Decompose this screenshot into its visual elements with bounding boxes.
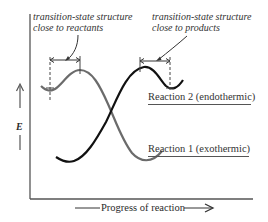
reaction-1-underline <box>148 156 249 157</box>
left-transition-bracket <box>46 56 80 102</box>
annotation-reactants-line2: close to reactants <box>33 22 132 33</box>
annotation-products: transition-state structure close to prod… <box>152 11 251 33</box>
reaction-2-label: Reaction 2 (endothermic) <box>148 91 255 103</box>
annotation-reactants-line1: transition-state structure <box>33 11 132 22</box>
annotation-products-line2: close to products <box>152 22 251 33</box>
reaction-1-label: Reaction 1 (exothermic) <box>148 143 250 155</box>
right-pointer-arrow-icon <box>158 36 187 60</box>
energy-up-arrow-icon <box>17 84 24 150</box>
reaction-1-curve <box>41 70 162 160</box>
x-axis-label: Progress of reaction <box>101 202 185 213</box>
left-pointer-arrow-icon <box>67 35 78 60</box>
reaction-2-underline <box>148 104 251 105</box>
energy-diagram: transition-state structure close to reac… <box>0 0 268 222</box>
annotation-reactants: transition-state structure close to reac… <box>33 11 132 33</box>
diagram-canvas <box>0 0 268 222</box>
right-pointer-head-icon <box>156 57 162 62</box>
y-axis-label: E <box>16 121 23 132</box>
annotation-products-line1: transition-state structure <box>152 11 251 22</box>
